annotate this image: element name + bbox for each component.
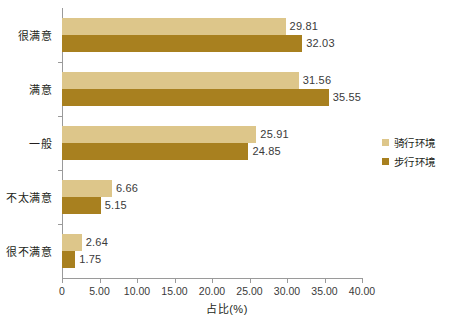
y-axis-tick xyxy=(58,116,62,117)
y-axis-tick xyxy=(58,224,62,225)
bar-value-label: 31.56 xyxy=(303,74,332,86)
legend: 骑行环境 步行环境 xyxy=(382,134,435,172)
bar-value-label: 6.66 xyxy=(116,182,138,194)
legend-swatch-cycling xyxy=(382,139,389,146)
bar-value-label: 1.75 xyxy=(79,253,101,265)
x-axis-tick-label: 0 xyxy=(59,285,65,297)
legend-swatch-walking xyxy=(382,158,389,165)
x-axis-tick xyxy=(100,279,101,283)
bar-value-label: 2.64 xyxy=(86,236,108,248)
x-axis-tick-label: 35.00 xyxy=(311,285,337,297)
x-axis-tick-label: 40.00 xyxy=(349,285,375,297)
bar-walking[interactable] xyxy=(62,89,329,106)
x-axis-tick-label: 5.00 xyxy=(89,285,109,297)
x-axis-tick xyxy=(362,279,363,283)
x-axis-tick xyxy=(137,279,138,283)
x-axis-tick-label: 10.00 xyxy=(124,285,150,297)
bar-cycling[interactable] xyxy=(62,126,256,143)
bar-value-label: 35.55 xyxy=(333,91,362,103)
x-axis-tick-label: 20.00 xyxy=(199,285,225,297)
bar-walking[interactable] xyxy=(62,35,302,52)
bar-cycling[interactable] xyxy=(62,234,82,251)
y-axis-category-label: 很不满意 xyxy=(0,243,52,259)
x-axis-tick xyxy=(250,279,251,283)
bar-value-label: 25.91 xyxy=(260,128,289,140)
x-axis-tick-label: 25.00 xyxy=(236,285,262,297)
legend-item-walking[interactable]: 步行环境 xyxy=(382,153,435,169)
bar-walking[interactable] xyxy=(62,197,101,214)
bar-cycling[interactable] xyxy=(62,72,299,89)
y-axis-tick xyxy=(58,62,62,63)
x-axis-tick xyxy=(62,279,63,283)
legend-label-cycling: 骑行环境 xyxy=(394,135,435,150)
x-axis-title: 占比(%) xyxy=(0,300,454,316)
bar-value-label: 32.03 xyxy=(306,37,335,49)
bar-cycling[interactable] xyxy=(62,180,112,197)
bar-value-label: 5.15 xyxy=(105,199,127,211)
y-axis-category-label: 很满意 xyxy=(0,27,52,43)
y-axis-category-label: 满意 xyxy=(0,81,52,97)
bar-cycling[interactable] xyxy=(62,18,286,35)
bar-value-label: 24.85 xyxy=(252,145,281,157)
bar-value-label: 29.81 xyxy=(290,20,319,32)
legend-label-walking: 步行环境 xyxy=(394,154,435,169)
y-axis-tick xyxy=(58,170,62,171)
x-axis-tick-label: 30.00 xyxy=(274,285,300,297)
y-axis-category-label: 一般 xyxy=(0,135,52,151)
x-axis-tick xyxy=(212,279,213,283)
x-axis-tick xyxy=(175,279,176,283)
bar-walking[interactable] xyxy=(62,143,248,160)
bar-walking[interactable] xyxy=(62,251,75,268)
legend-item-cycling[interactable]: 骑行环境 xyxy=(382,134,435,150)
bar-chart: 很满意29.8132.03满意31.5635.55一般25.9124.85不太满… xyxy=(0,0,454,320)
x-axis-tick xyxy=(287,279,288,283)
x-axis-tick-label: 15.00 xyxy=(161,285,187,297)
x-axis-tick xyxy=(325,279,326,283)
y-axis-category-label: 不太满意 xyxy=(0,189,52,205)
